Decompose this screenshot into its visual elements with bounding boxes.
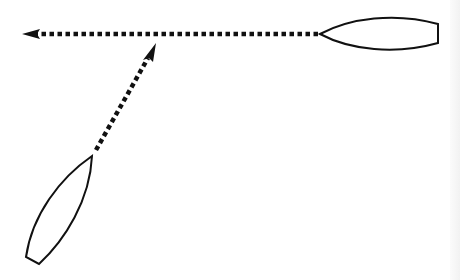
boat-upper-right-icon (320, 18, 438, 50)
right-edge-strip (450, 0, 460, 280)
diagonal-path (96, 43, 156, 150)
horizontal-path (22, 29, 318, 39)
boat-lower-left-icon (26, 156, 92, 264)
diagram-canvas (0, 0, 460, 280)
